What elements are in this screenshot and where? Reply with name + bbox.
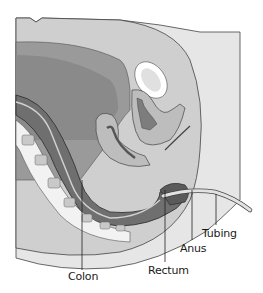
label-colon: Colon <box>68 270 98 283</box>
anatomy-diagram <box>0 0 263 293</box>
label-rectum: Rectum <box>148 264 189 277</box>
label-anus: Anus <box>180 242 206 255</box>
label-tubing: Tubing <box>202 227 237 240</box>
